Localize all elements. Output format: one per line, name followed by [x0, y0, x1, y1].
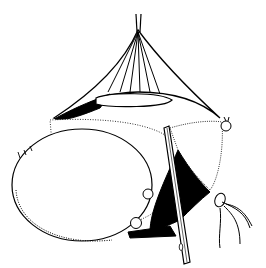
surgical-illustration: [0, 0, 266, 268]
illustration-canvas: [0, 0, 266, 268]
tissue-tent: [54, 14, 220, 120]
vessel-bundle: [219, 202, 252, 248]
